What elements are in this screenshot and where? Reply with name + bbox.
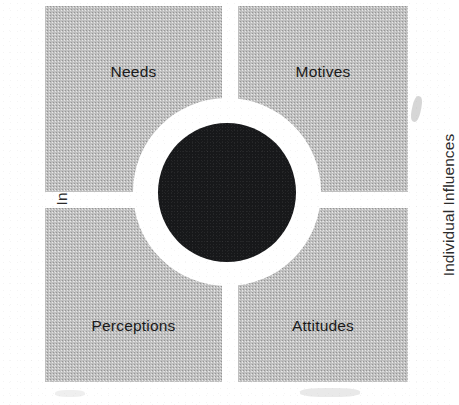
- scan-artifact: [300, 388, 360, 397]
- center-hub-circle: [158, 123, 296, 262]
- quadrant-label-attitudes: Attitudes: [238, 318, 408, 334]
- scan-artifact: [55, 390, 85, 397]
- quadrant-label-needs: Needs: [45, 64, 222, 80]
- axis-label-right: Individual Influences: [441, 85, 459, 325]
- quadrant-label-motives: Motives: [238, 64, 408, 80]
- quadrant-label-perceptions: Perceptions: [45, 318, 222, 334]
- scan-artifact: [409, 95, 423, 122]
